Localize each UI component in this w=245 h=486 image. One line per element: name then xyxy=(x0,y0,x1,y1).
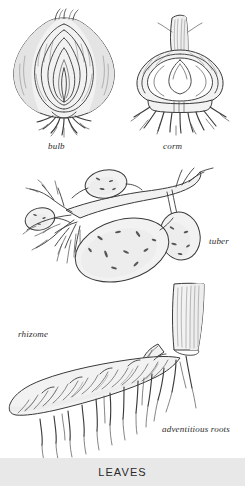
corm-label: corm xyxy=(163,141,182,151)
tuber-with-stolons-icon xyxy=(14,168,214,296)
corm-figure xyxy=(126,14,234,136)
rhizome-icon xyxy=(8,284,240,464)
adventitious-roots-label: adventitious roots xyxy=(162,424,230,434)
tuber-figure xyxy=(14,168,214,296)
rhizome-figure xyxy=(8,284,240,464)
bulb-label: bulb xyxy=(48,141,65,151)
rhizome-label: rhizome xyxy=(18,329,48,339)
bulb-figure xyxy=(8,8,120,138)
tuber-label: tuber xyxy=(209,236,229,246)
plant-morphology-diagram: bulb xyxy=(0,0,245,486)
leaves-heading-text: LEAVES xyxy=(98,466,147,478)
bulb-cross-section-icon xyxy=(8,8,120,138)
corm-cross-section-icon xyxy=(126,14,234,136)
leaves-section-header: LEAVES xyxy=(0,458,245,486)
